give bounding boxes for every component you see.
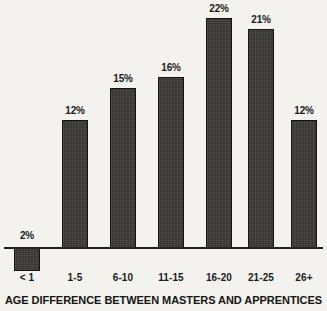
bar-value-label: 15% <box>113 73 132 84</box>
bar-value-label: 2% <box>20 230 34 241</box>
bar-group: 22% <box>196 0 242 262</box>
bar-group: 12% <box>52 0 98 262</box>
x-axis-tick-label: 21-25 <box>238 272 284 283</box>
bar-value-label: 12% <box>294 105 313 116</box>
bar-value-label: 22% <box>209 3 228 14</box>
bar-group: 16% <box>148 0 194 262</box>
x-axis-tick-label: < 1 <box>4 272 50 283</box>
bar-value-label: 12% <box>65 105 84 116</box>
bar-value-label: 16% <box>161 62 180 73</box>
bar-chart: 2% 12% 15% 16% 22% 21% 12% < <box>0 0 327 311</box>
bar-group: 15% <box>100 0 146 262</box>
plot-area: 2% 12% 15% 16% 22% 21% 12% <box>0 0 327 262</box>
bar-value-label: 21% <box>251 14 270 25</box>
x-axis-tick-label: 26+ <box>281 272 327 283</box>
bar-group: 21% <box>238 0 284 262</box>
x-axis-tick-label: 11-15 <box>148 272 194 283</box>
bar-group: 12% <box>281 0 327 262</box>
bar-group: 2% <box>4 0 50 262</box>
bar[interactable] <box>248 29 274 248</box>
x-axis-tick-label: 16-20 <box>196 272 242 283</box>
bar[interactable] <box>110 88 136 248</box>
chart-title: AGE DIFFERENCE BETWEEN MASTERS AND APPRE… <box>0 294 327 306</box>
bar[interactable] <box>158 77 184 248</box>
x-axis-line <box>4 247 323 249</box>
bar[interactable] <box>14 248 40 271</box>
x-axis-tick-label: 6-10 <box>100 272 146 283</box>
bar[interactable] <box>62 120 88 248</box>
bar[interactable] <box>291 120 317 248</box>
x-axis-tick-label: 1-5 <box>52 272 98 283</box>
x-axis-labels: < 1 1-5 6-10 11-15 16-20 21-25 26+ <box>0 272 327 288</box>
bar[interactable] <box>206 18 232 248</box>
